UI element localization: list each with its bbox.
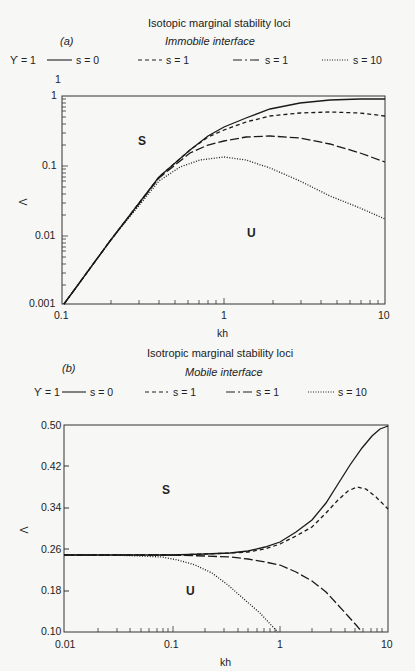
plot-a-curves — [64, 99, 385, 304]
chart-graphics — [0, 0, 415, 671]
plot-b-axes — [64, 425, 388, 632]
series-s1-long-dash — [64, 555, 362, 632]
series-s10-dotted — [64, 555, 278, 632]
series-s0-solid — [64, 426, 388, 555]
plot-b-curves — [64, 426, 388, 632]
series-s10-dotted — [64, 157, 385, 304]
series-s1-long-dash — [64, 136, 385, 304]
series-s1-short-dash — [64, 487, 388, 555]
